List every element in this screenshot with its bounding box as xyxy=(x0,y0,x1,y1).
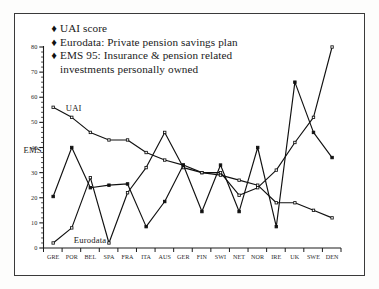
y-tick-label: 70 xyxy=(22,68,38,75)
annotation-eurodata: Eurodata xyxy=(74,235,107,245)
legend-label-eurodata: Eurodata: Private pension savings plan xyxy=(60,36,238,49)
y-tick-label: 10 xyxy=(22,219,38,226)
chart-figure: ♦ UAI score ♦ Eurodata: Private pension … xyxy=(0,0,379,289)
legend-marker-icon: ♦ xyxy=(48,49,60,62)
y-tick-label: 80 xyxy=(22,43,38,50)
y-tick-label: 0 xyxy=(22,244,38,251)
legend-item-uai: ♦ UAI score xyxy=(48,22,308,35)
y-tick-label: 30 xyxy=(22,169,38,176)
legend-marker-icon: ♦ xyxy=(48,36,60,49)
legend-label-ems-continued: investments personally owned xyxy=(48,63,308,76)
legend-label-uai: UAI score xyxy=(60,22,107,35)
y-tick-label: 40 xyxy=(22,144,38,151)
legend-marker-icon: ♦ xyxy=(48,22,60,35)
y-tick-label: 20 xyxy=(22,194,38,201)
y-tick-label: 50 xyxy=(22,118,38,125)
annotation-uai: UAI xyxy=(66,103,82,113)
legend-label-ems: EMS 95: Insurance & pension related xyxy=(60,49,232,62)
y-tick-label: 60 xyxy=(22,93,38,100)
legend-item-eurodata: ♦ Eurodata: Private pension savings plan xyxy=(48,36,308,49)
x-tick-label-den: DEN xyxy=(318,254,346,260)
legend-item-ems: ♦ EMS 95: Insurance & pension related xyxy=(48,49,308,62)
chart-legend: ♦ UAI score ♦ Eurodata: Private pension … xyxy=(48,22,308,75)
